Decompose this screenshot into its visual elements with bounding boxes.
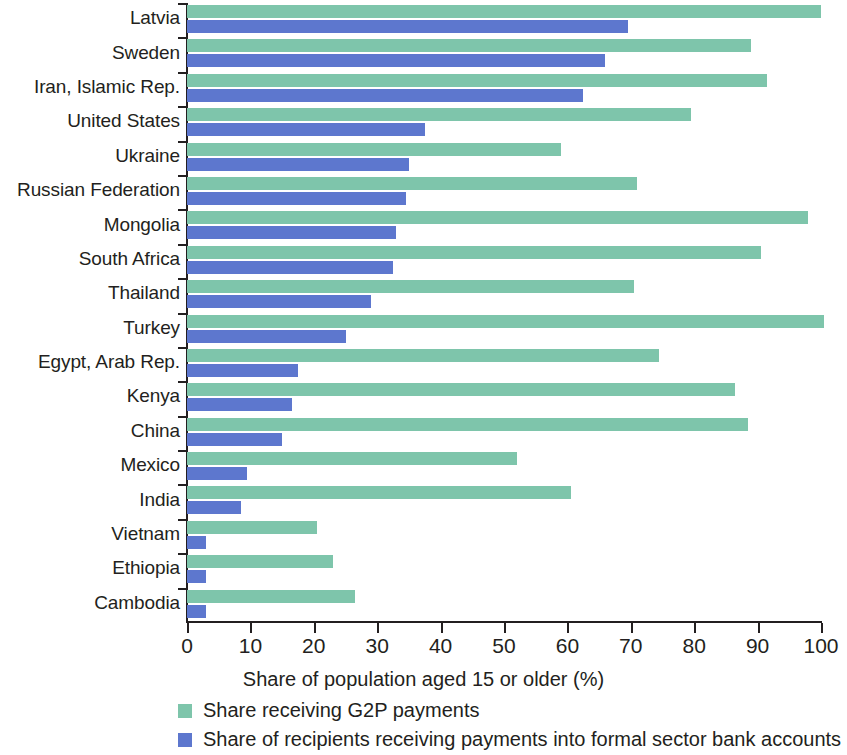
y-axis-tick (178, 484, 187, 486)
bar-bank-account-share (187, 54, 605, 67)
bar-chart-figure: LatviaSwedenIran, Islamic Rep.United Sta… (0, 0, 847, 755)
y-axis-label: Sweden (112, 42, 180, 64)
bar-group (187, 244, 821, 278)
x-axis-tick-label: 10 (239, 634, 262, 658)
bar-bank-account-share (187, 295, 371, 308)
bar-bank-account-share (187, 605, 206, 618)
y-axis-label: Turkey (123, 317, 180, 339)
bar-g2p-share (187, 383, 735, 396)
bar-g2p-share (187, 521, 317, 534)
legend-swatch-blue (178, 733, 192, 747)
x-axis-tick-label: 80 (683, 634, 706, 658)
y-axis-tick (178, 141, 187, 143)
y-axis-label: Thailand (108, 282, 180, 304)
bar-bank-account-share (187, 226, 396, 239)
bar-bank-account-share (187, 570, 206, 583)
y-axis-tick (178, 72, 187, 74)
bar-group (187, 553, 821, 587)
bar-group (187, 313, 821, 347)
bar-g2p-share (187, 211, 808, 224)
y-axis-tick (178, 37, 187, 39)
x-axis-tick (504, 623, 506, 633)
x-axis-tick (821, 623, 823, 633)
bar-g2p-share (187, 246, 761, 259)
bar-g2p-share (187, 143, 561, 156)
y-axis-label: Kenya (127, 385, 180, 407)
bar-group (187, 588, 821, 622)
legend-label-bank-accounts: Share of recipients receiving payments i… (203, 728, 841, 751)
legend-swatch-green (178, 704, 192, 718)
x-axis-tick (250, 623, 252, 633)
bar-g2p-share (187, 349, 659, 362)
y-axis-tick (178, 381, 187, 383)
y-axis-label: United States (67, 110, 180, 132)
y-axis-tick (178, 175, 187, 177)
x-axis-tick-label: 30 (366, 634, 389, 658)
bar-g2p-share (187, 39, 751, 52)
y-axis-tick (178, 244, 187, 246)
y-axis-tick (178, 278, 187, 280)
x-axis-tick-labels: 0102030405060708090100 (187, 634, 821, 662)
x-axis-tick-label: 90 (746, 634, 769, 658)
bar-g2p-share (187, 74, 767, 87)
bar-group (187, 381, 821, 415)
bar-g2p-share (187, 418, 748, 431)
x-axis-tick (314, 623, 316, 633)
y-axis-label: Iran, Islamic Rep. (34, 76, 180, 98)
y-axis-tick (178, 347, 187, 349)
bar-bank-account-share (187, 398, 292, 411)
bar-bank-account-share (187, 330, 346, 343)
y-axis-label: Mongolia (104, 214, 180, 236)
y-axis-tick (178, 519, 187, 521)
y-axis-tick (178, 3, 187, 5)
bar-bank-account-share (187, 536, 206, 549)
bar-bank-account-share (187, 20, 628, 33)
y-axis-tick (178, 209, 187, 211)
x-axis-tick-label: 70 (619, 634, 642, 658)
x-axis-tick-label: 20 (302, 634, 325, 658)
plot-area (187, 3, 821, 622)
y-axis-label: Ukraine (115, 145, 180, 167)
bar-group (187, 416, 821, 450)
x-axis-tick (758, 623, 760, 633)
y-axis-label: Vietnam (111, 523, 180, 545)
bar-bank-account-share (187, 501, 241, 514)
x-axis-tick (694, 623, 696, 633)
bar-g2p-share (187, 555, 333, 568)
bar-group (187, 278, 821, 312)
x-axis-tick-label: 0 (181, 634, 193, 658)
y-axis-label: China (131, 420, 180, 442)
y-axis-label: Egypt, Arab Rep. (38, 351, 180, 373)
x-axis-title: Share of population aged 15 or older (%) (0, 668, 847, 691)
bar-bank-account-share (187, 123, 425, 136)
bar-group (187, 3, 821, 37)
x-axis-tick (377, 623, 379, 633)
bar-g2p-share (187, 452, 517, 465)
x-axis-tick-label: 100 (803, 634, 838, 658)
bar-bank-account-share (187, 261, 393, 274)
bar-group (187, 175, 821, 209)
bar-g2p-share (187, 108, 691, 121)
bar-group (187, 209, 821, 243)
legend-item-bank-accounts: Share of recipients receiving payments i… (178, 725, 838, 754)
bar-bank-account-share (187, 467, 247, 480)
bar-g2p-share (187, 486, 571, 499)
bar-group (187, 484, 821, 518)
y-axis-label: South Africa (79, 248, 180, 270)
y-axis-tick (178, 106, 187, 108)
bar-group (187, 141, 821, 175)
y-axis-label: Ethiopia (112, 557, 180, 579)
x-axis-tick (187, 623, 189, 633)
bar-bank-account-share (187, 433, 282, 446)
bar-bank-account-share (187, 158, 409, 171)
bar-group (187, 519, 821, 553)
bar-bank-account-share (187, 364, 298, 377)
y-axis-label: Cambodia (94, 592, 180, 614)
y-axis-tick (178, 450, 187, 452)
bar-g2p-share (187, 590, 355, 603)
bar-g2p-share (187, 315, 824, 328)
bar-group (187, 450, 821, 484)
legend-label-g2p: Share receiving G2P payments (203, 699, 479, 722)
bar-bank-account-share (187, 89, 583, 102)
bar-bank-account-share (187, 192, 406, 205)
